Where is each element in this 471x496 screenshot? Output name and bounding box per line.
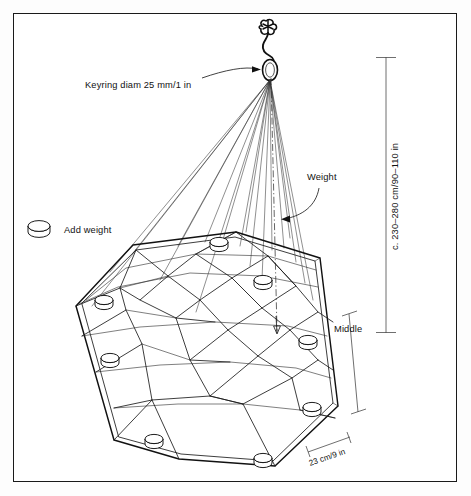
net-mesh — [76, 232, 338, 466]
weight-disc-icon — [145, 434, 163, 448]
width-dimension: 23 cm/9 in — [306, 432, 351, 468]
suspension-group — [259, 20, 277, 81]
leader-arrowhead-icon — [281, 216, 290, 223]
weight-disc-icon — [28, 221, 50, 238]
suspension-strings — [92, 80, 313, 312]
keyring-label: Keyring diam 25 mm/1 in — [85, 80, 191, 90]
weight-disc-icon — [210, 237, 228, 251]
weight-label: Weight — [307, 172, 337, 182]
height-dimension: c. 230–280 cm/90–110 in — [376, 57, 400, 333]
net-outer-boundary — [76, 232, 338, 466]
weight-disc-icon — [101, 353, 119, 367]
add-weight-label: Add weight — [64, 225, 112, 235]
net-diagram-illustration: Keyring diam 25 mm/1 in Add weight Weigh… — [0, 0, 471, 496]
weight-disc-icon — [95, 295, 113, 309]
keyring-annotation: Keyring diam 25 mm/1 in — [85, 66, 261, 90]
leader-arrowhead-icon — [252, 66, 261, 72]
add-weight-annotation: Add weight — [28, 221, 112, 238]
middle-dimension: Middle — [334, 311, 366, 414]
weight-disc-icon — [299, 335, 317, 349]
weight-disc-icon — [303, 402, 321, 416]
weight-disc-icon — [254, 453, 272, 467]
weight-disc-icon — [254, 275, 272, 289]
middle-label: Middle — [334, 324, 362, 334]
weights-group — [95, 237, 321, 467]
keyring-inner-icon — [266, 63, 275, 77]
diagram-page: Keyring diam 25 mm/1 in Add weight Weigh… — [0, 0, 471, 496]
height-dimension-label: c. 230–280 cm/90–110 in — [390, 143, 400, 250]
